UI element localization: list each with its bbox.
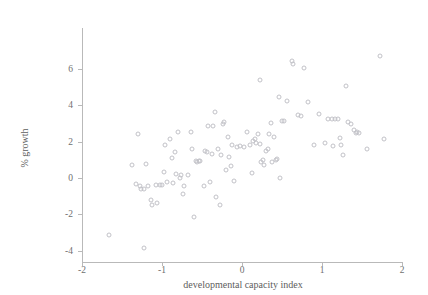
- data-point: [168, 137, 173, 142]
- data-point: [214, 194, 219, 199]
- y-tick-mark: [78, 105, 82, 106]
- data-point: [224, 167, 229, 172]
- data-point: [356, 130, 361, 135]
- data-point: [262, 162, 267, 167]
- data-point: [316, 112, 321, 117]
- data-point: [344, 83, 349, 88]
- y-tick-label: 6: [68, 64, 73, 74]
- data-point: [228, 163, 233, 168]
- y-tick-label: -2: [65, 209, 73, 219]
- y-tick-mark: [78, 69, 82, 70]
- data-point: [145, 184, 150, 189]
- data-point: [169, 156, 174, 161]
- data-point: [281, 119, 286, 124]
- data-point: [107, 232, 112, 237]
- data-point: [172, 149, 177, 154]
- data-point: [164, 180, 169, 185]
- data-point: [216, 147, 221, 152]
- data-point: [163, 142, 168, 147]
- data-point: [171, 181, 176, 186]
- y-tick-mark: [78, 142, 82, 143]
- data-point: [136, 131, 141, 136]
- y-tick-label: -4: [65, 246, 73, 256]
- y-axis-title: % growth: [19, 128, 30, 167]
- data-point: [275, 157, 280, 162]
- data-point: [211, 123, 216, 128]
- data-point: [212, 109, 217, 114]
- data-point: [190, 146, 195, 151]
- data-point: [340, 153, 345, 158]
- data-point: [256, 132, 261, 137]
- data-point: [382, 137, 387, 142]
- y-tick-mark: [78, 251, 82, 252]
- data-point: [339, 142, 344, 147]
- data-point: [272, 134, 277, 139]
- x-tick-label: 1: [320, 265, 325, 275]
- data-point: [129, 162, 134, 167]
- data-point: [155, 201, 160, 206]
- y-tick-label: 0: [68, 173, 73, 183]
- data-point: [249, 171, 254, 176]
- data-point: [188, 129, 193, 134]
- data-point: [305, 100, 310, 105]
- data-point: [268, 121, 273, 126]
- data-point: [208, 179, 213, 184]
- data-point: [192, 214, 197, 219]
- data-point: [160, 183, 165, 188]
- data-point: [291, 62, 296, 67]
- data-point: [144, 161, 149, 166]
- data-point: [241, 145, 246, 150]
- x-tick-label: 0: [240, 265, 245, 275]
- x-axis-title: developmental capacity index: [183, 279, 302, 290]
- x-tick-label: -2: [78, 265, 86, 275]
- data-point: [377, 53, 382, 58]
- data-point: [337, 135, 342, 140]
- y-tick-mark: [78, 178, 82, 179]
- data-point: [217, 203, 222, 208]
- data-point: [331, 144, 336, 149]
- data-point: [276, 94, 281, 99]
- data-point: [265, 146, 270, 151]
- data-point: [257, 77, 262, 82]
- data-point: [176, 130, 181, 135]
- y-tick-label: 4: [68, 100, 73, 110]
- data-point: [198, 159, 203, 164]
- data-point: [348, 122, 353, 127]
- data-point: [278, 175, 283, 180]
- data-point: [364, 146, 369, 151]
- data-point: [161, 170, 166, 175]
- data-point: [222, 120, 227, 125]
- scatter-plot-figure: -4-20246 -2-1012 developmental capacity …: [0, 0, 428, 295]
- data-point: [225, 134, 230, 139]
- x-tick-label: 2: [400, 265, 405, 275]
- data-point: [257, 141, 262, 146]
- data-point: [185, 173, 190, 178]
- data-point: [232, 179, 237, 184]
- data-point: [182, 184, 187, 189]
- data-point: [219, 153, 224, 158]
- data-point: [336, 117, 341, 122]
- data-point: [323, 140, 328, 145]
- data-point: [179, 173, 184, 178]
- data-point: [227, 154, 232, 159]
- y-tick-mark: [78, 214, 82, 215]
- data-point: [244, 129, 249, 134]
- data-point: [209, 151, 214, 156]
- data-point: [180, 192, 185, 197]
- data-point: [201, 184, 206, 189]
- y-tick-label: 2: [68, 137, 73, 147]
- data-point: [299, 114, 304, 119]
- data-point: [312, 143, 317, 148]
- data-point: [284, 99, 289, 104]
- data-point: [142, 246, 147, 251]
- x-tick-label: -1: [158, 265, 166, 275]
- data-point: [302, 66, 307, 71]
